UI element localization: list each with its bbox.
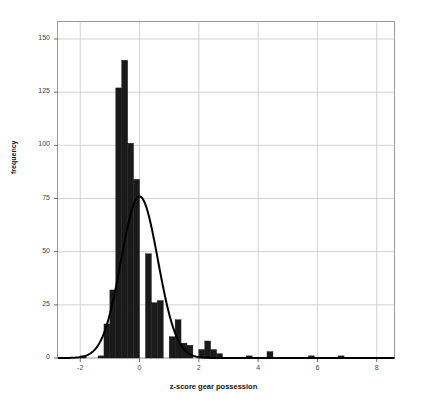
histogram-bar: [211, 349, 217, 358]
y-tick-label: 75: [24, 194, 50, 201]
histogram-bar: [116, 88, 122, 358]
x-tick-label: 8: [367, 364, 387, 371]
histogram-bar: [98, 356, 104, 358]
histogram-bar: [122, 60, 128, 358]
x-tick-label: -2: [70, 364, 90, 371]
x-tick-label: 0: [130, 364, 150, 371]
histogram-bar: [145, 254, 151, 358]
histogram-bar: [157, 301, 163, 358]
histogram-bar: [151, 303, 157, 358]
y-tick-label: 25: [24, 300, 50, 307]
y-tick-label: 100: [24, 140, 50, 147]
plot-frame: [58, 22, 395, 359]
y-tick-label: 0: [24, 353, 50, 360]
y-tick-label: 125: [24, 87, 50, 94]
histogram-chart: frequency 0255075100125150 -202468 z-sco…: [0, 0, 427, 406]
y-tick-label: 50: [24, 247, 50, 254]
histogram-bar: [134, 179, 140, 358]
x-tick-label: 6: [307, 364, 327, 371]
histogram-bar: [169, 337, 175, 358]
y-axis-title: frequency: [10, 84, 17, 174]
histogram-bar: [128, 143, 134, 358]
plot-area: [0, 0, 427, 406]
x-axis-title: z-score gear possession: [0, 382, 427, 391]
x-tick-label: 2: [189, 364, 209, 371]
histogram-bar: [205, 341, 211, 358]
x-tick-label: 4: [248, 364, 268, 371]
y-tick-label: 150: [24, 34, 50, 41]
